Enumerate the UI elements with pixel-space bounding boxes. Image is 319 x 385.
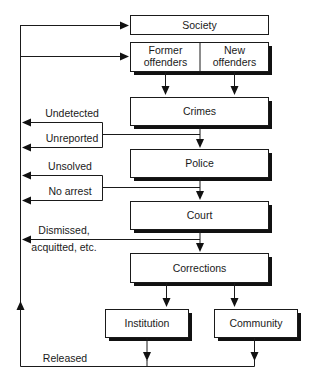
dismissed-label-2: acquitted, etc. <box>31 241 96 253</box>
institution-node: Institution <box>106 310 193 342</box>
corrections-label: Corrections <box>173 262 227 274</box>
former-offenders-label-2: offenders <box>144 56 188 68</box>
undetected-label: Undetected <box>45 107 99 119</box>
court-label: Court <box>187 209 213 221</box>
former-offenders-label-1: Former <box>149 44 183 56</box>
society-node: Society <box>131 16 269 35</box>
police-node: Police <box>131 150 273 182</box>
crimes-label: Crimes <box>183 105 216 117</box>
arrow-corrections-to-branches <box>163 283 239 307</box>
community-node: Community <box>215 310 302 342</box>
new-offenders-label-1: New <box>224 44 245 56</box>
court-node: Court <box>131 202 273 234</box>
corrections-node: Corrections <box>131 254 273 287</box>
crimes-node: Crimes <box>131 98 273 130</box>
dismissed-label-1: Dismissed, <box>38 224 89 236</box>
institution-label: Institution <box>125 317 170 329</box>
offenders-node: Former offenders New offenders <box>131 43 273 76</box>
police-label: Police <box>185 157 214 169</box>
arrow-offenders-to-crimes <box>162 72 239 95</box>
community-label: Community <box>229 317 283 329</box>
criminal-justice-flowchart: Society Former offenders New offenders C… <box>0 0 319 385</box>
released-label: Released <box>43 352 88 364</box>
no-arrest-label: No arrest <box>48 185 91 197</box>
unreported-label: Unreported <box>46 132 99 144</box>
new-offenders-label-2: offenders <box>213 56 257 68</box>
unsolved-label: Unsolved <box>48 160 92 172</box>
society-label: Society <box>182 19 217 31</box>
